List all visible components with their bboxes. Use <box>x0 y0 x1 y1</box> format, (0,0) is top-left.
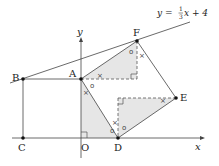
line-equation-label: y = 1 3 x + 4 <box>156 5 208 20</box>
circle-mark-d-right: o <box>122 124 126 132</box>
point-e <box>174 96 178 100</box>
equation-frac-den: 3 <box>179 13 183 20</box>
point-a <box>79 77 83 81</box>
circle-mark-a: o <box>90 82 94 90</box>
point-c <box>21 136 25 140</box>
label-d: D <box>114 142 122 153</box>
equation-suffix: x + 4 <box>184 8 208 18</box>
cross-mark-a-lower: × <box>83 89 89 97</box>
label-c: C <box>18 142 26 153</box>
equation-prefix: y = <box>156 8 173 18</box>
point-b <box>21 77 25 81</box>
cross-mark-a: × <box>97 72 103 80</box>
cross-mark-d: × <box>112 119 118 127</box>
label-e: E <box>180 92 187 103</box>
label-f: F <box>133 27 140 38</box>
x-axis-arrow-icon <box>200 136 205 140</box>
label-o: O <box>81 142 89 153</box>
cross-mark-e: × <box>160 97 166 105</box>
label-x-axis: x <box>195 141 201 152</box>
point-f <box>135 39 139 43</box>
label-a: A <box>68 68 77 79</box>
circle-mark-d-left: o <box>110 127 114 135</box>
diagram-canvas: × o × o × o × o × A B C O D E F y x y = … <box>0 0 219 166</box>
label-b: B <box>12 72 19 83</box>
y-axis-arrow-icon <box>79 37 83 42</box>
circle-mark-f: o <box>129 48 133 56</box>
label-y-axis: y <box>76 26 83 37</box>
cross-mark-f: × <box>139 52 145 60</box>
equation-frac-num: 1 <box>179 5 183 12</box>
point-d <box>116 136 120 140</box>
segment-fe <box>137 41 176 98</box>
geometry-diagram: × o × o × o × o × A B C O D E F y x y = … <box>0 0 219 166</box>
